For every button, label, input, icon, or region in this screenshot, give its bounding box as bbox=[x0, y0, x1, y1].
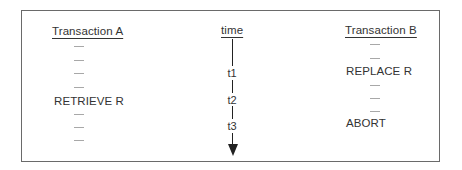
transaction-a-step-dash bbox=[74, 60, 84, 61]
transaction-b-step-dash bbox=[370, 44, 380, 45]
transaction-b-abort-step: ABORT bbox=[346, 117, 386, 129]
transaction-a-step-dash bbox=[74, 46, 84, 47]
transaction-b-step-dash bbox=[370, 111, 380, 112]
transaction-a-step-dash bbox=[74, 114, 84, 115]
transaction-a-step-dash bbox=[74, 73, 84, 74]
transaction-b-step-dash bbox=[370, 85, 380, 86]
time-axis-segment bbox=[232, 80, 234, 93]
transaction-a-step-dash bbox=[74, 87, 84, 88]
time-marker-t3: t3 bbox=[220, 120, 244, 132]
transaction-b-header: Transaction B bbox=[345, 24, 417, 36]
time-axis-segment bbox=[232, 39, 234, 66]
transaction-a-step-dash bbox=[74, 140, 84, 141]
transaction-b-replace-step: REPLACE R bbox=[346, 65, 412, 77]
transaction-a-step-dash bbox=[74, 127, 84, 128]
transaction-b-step-dash bbox=[370, 98, 380, 99]
time-axis-segment bbox=[232, 106, 234, 119]
time-marker-t2: t2 bbox=[220, 94, 244, 106]
transaction-a-header: Transaction A bbox=[52, 25, 123, 37]
time-marker-t1: t1 bbox=[220, 67, 244, 79]
time-header: time bbox=[221, 24, 243, 36]
transaction-a-retrieve-step: RETRIEVE R bbox=[54, 95, 124, 107]
transaction-b-step-dash bbox=[370, 58, 380, 59]
down-arrow-icon bbox=[228, 144, 238, 156]
